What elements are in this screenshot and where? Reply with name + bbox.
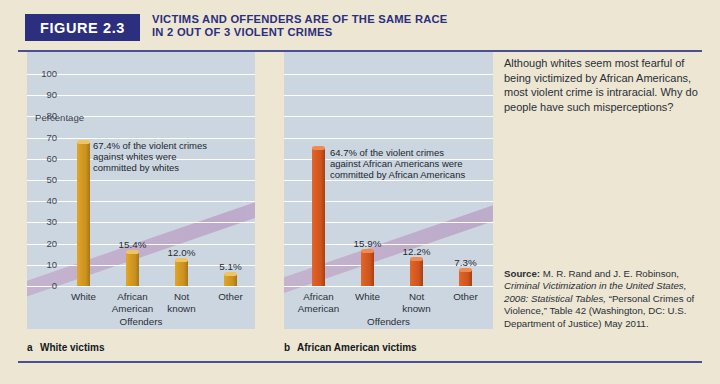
bar-other: [224, 275, 237, 286]
x-axis-tick-label: Not: [157, 291, 206, 303]
bar-shading: [184, 261, 188, 286]
bar-value-label: 5.1%: [206, 261, 255, 272]
bar-top-cap: [312, 146, 325, 150]
x-axis-category: White: [59, 291, 108, 303]
bar-top-cap: [361, 249, 374, 253]
bar-shading: [86, 143, 90, 286]
bar-shading: [321, 149, 325, 286]
bar-not-known: [410, 260, 423, 286]
figure-body: 0102030405060708090100White15.4%AfricanA…: [0, 52, 720, 361]
chart-panel-african-american-victims: AfricanAmerican15.9%White12.2%Notknown7.…: [284, 52, 493, 329]
figure-page: FIGURE 2.3 VICTIMS AND OFFENDERS ARE OF …: [0, 0, 720, 384]
gridline: [284, 286, 493, 287]
figure-number-badge: FIGURE 2.3: [25, 14, 140, 41]
source-citation: Source: M. R. Rand and J. E. Robinson, C…: [504, 268, 712, 330]
x-axis-category: Other: [441, 291, 490, 303]
bar-african-american: [312, 149, 325, 286]
annotation-line: 67.4% of the violent crimes: [93, 140, 207, 151]
y-axis-tick-label: 90: [27, 90, 57, 100]
x-axis-tick-label: American: [294, 303, 343, 315]
bar-value-label: 15.9%: [343, 238, 392, 249]
annotation-line: against whites were: [93, 151, 207, 162]
y-axis-tick-label: 100: [27, 69, 57, 79]
gridline: [284, 116, 493, 117]
chart-annotation: 64.7% of the violent crimesagainst Afric…: [330, 147, 465, 181]
bar-shading: [233, 275, 237, 286]
annotation-line: 64.7% of the violent crimes: [330, 147, 465, 158]
bar-other: [459, 271, 472, 286]
x-axis-tick-label: Other: [441, 291, 490, 303]
x-axis-title: Offenders: [284, 316, 493, 327]
x-axis-tick-label: Not: [392, 291, 441, 303]
plot-area-white-victims: 0102030405060708090100White15.4%AfricanA…: [27, 52, 255, 329]
gridline: [27, 180, 255, 181]
source-title-line-1: Criminal Victimization in the United: [504, 280, 654, 291]
y-axis-tick-label: 0: [27, 281, 57, 291]
y-axis-title: Percentage: [35, 112, 84, 123]
x-axis-category: Other: [206, 291, 255, 303]
x-axis-category: AfricanAmerican: [294, 291, 343, 314]
caption-a-letter: a: [27, 342, 40, 353]
y-axis-tick-label: 30: [27, 217, 57, 227]
x-axis-tick-label: American: [108, 303, 157, 315]
bar-top-cap: [410, 257, 423, 261]
x-axis-tick-label: Other: [206, 291, 255, 303]
x-axis-tick-label: White: [343, 291, 392, 303]
source-label: Source:: [504, 268, 540, 279]
bar-value-label: 7.3%: [441, 257, 490, 268]
gridline: [27, 74, 255, 75]
figure-title-line-1: VICTIMS AND OFFENDERS ARE OF THE SAME RA…: [152, 13, 512, 26]
source-authors: M. R. Rand and J. E. Robinson,: [540, 268, 679, 279]
caption-b-text: African American victims: [297, 342, 417, 353]
y-axis-tick-label: 20: [27, 239, 57, 249]
x-axis-tick-label: White: [59, 291, 108, 303]
y-axis-tick-label: 50: [27, 175, 57, 185]
caption-a-text: White victims: [40, 342, 104, 353]
gridline: [284, 95, 493, 96]
annotation-line: committed by whites: [93, 162, 207, 173]
chart-panel-white-victims: 0102030405060708090100White15.4%AfricanA…: [27, 52, 255, 329]
x-axis-tick-label: African: [108, 291, 157, 303]
bar-shading: [468, 271, 472, 286]
bar-value-label: 15.4%: [108, 239, 157, 250]
bar-shading: [419, 260, 423, 286]
bar-top-cap: [224, 272, 237, 276]
y-axis-tick-label: 70: [27, 133, 57, 143]
gridline: [27, 95, 255, 96]
bar-shading: [135, 253, 139, 286]
bar-top-cap: [459, 268, 472, 272]
x-axis-tick-label: known: [157, 303, 206, 315]
annotation-line: committed by African Americans: [330, 169, 465, 180]
bar-not-known: [175, 261, 188, 286]
gridline: [27, 286, 255, 287]
figure-title: VICTIMS AND OFFENDERS ARE OF THE SAME RA…: [152, 13, 512, 38]
gridline: [27, 201, 255, 202]
y-axis-tick-label: 60: [27, 154, 57, 164]
bar-top-cap: [77, 140, 90, 144]
bar-white: [77, 143, 90, 286]
y-axis-tick-label: 40: [27, 196, 57, 206]
x-axis-title: Offenders: [27, 316, 255, 327]
bar-top-cap: [175, 258, 188, 262]
bar-white: [361, 252, 374, 286]
bar-top-cap: [126, 250, 139, 254]
footer-divider: [18, 361, 702, 363]
x-axis-category: Notknown: [392, 291, 441, 314]
x-axis-tick-label: known: [392, 303, 441, 315]
gridline: [284, 74, 493, 75]
chart-annotation: 67.4% of the violent crimesagainst white…: [93, 140, 207, 174]
side-note-text: Although whites seem most fearful of bei…: [504, 56, 710, 114]
figure-title-line-2: IN 2 OUT OF 3 VIOLENT CRIMES: [152, 26, 512, 39]
gridline: [27, 138, 255, 139]
figure-header: FIGURE 2.3 VICTIMS AND OFFENDERS ARE OF …: [0, 8, 720, 48]
gridline: [27, 222, 255, 223]
bar-shading: [370, 252, 374, 286]
x-axis-category: Notknown: [157, 291, 206, 314]
annotation-line: against African Americans were: [330, 158, 465, 169]
x-axis-category: White: [343, 291, 392, 303]
bar-african-american: [126, 253, 139, 286]
caption-b: bAfrican American victims: [284, 342, 417, 353]
caption-b-letter: b: [284, 342, 297, 353]
plot-area-african-american-victims: AfricanAmerican15.9%White12.2%Notknown7.…: [284, 52, 493, 329]
source-date: Justice) May 2011.: [568, 318, 649, 329]
